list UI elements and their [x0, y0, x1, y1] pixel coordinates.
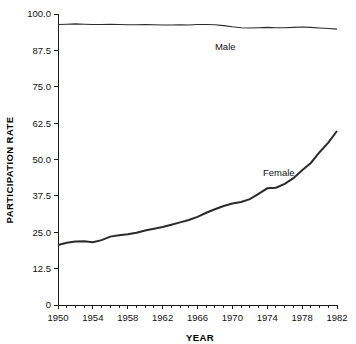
- y-tick-label: 25.0: [33, 227, 52, 238]
- y-tick-label: 0: [46, 299, 51, 310]
- y-tick-label: 87.5: [33, 45, 52, 56]
- x-tick-label: 1966: [187, 312, 208, 323]
- x-axis-tick-labels: 195019541958196219661970197419781982: [47, 312, 347, 323]
- y-tick-label: 100.0: [27, 8, 51, 19]
- x-tick-label: 1974: [257, 312, 278, 323]
- y-axis-ticks: [54, 14, 58, 305]
- participation-rate-line-chart: 012.525.037.550.062.575.087.5100.0 19501…: [0, 0, 356, 344]
- chart-axes: [58, 14, 337, 305]
- x-tick-label: 1970: [222, 312, 243, 323]
- y-axis-tick-labels: 012.525.037.550.062.575.087.5100.0: [27, 8, 51, 310]
- series-line-male: [58, 24, 337, 29]
- x-axis-title: YEAR: [186, 332, 214, 343]
- x-tick-label: 1958: [117, 312, 138, 323]
- series-label-female: Female: [263, 167, 295, 178]
- y-axis-title: PARTICIPATION RATE: [4, 117, 15, 224]
- x-tick-label: 1954: [82, 312, 103, 323]
- x-axis-ticks: [58, 305, 337, 309]
- y-tick-label: 37.5: [33, 190, 52, 201]
- chart-container: 012.525.037.550.062.575.087.5100.0 19501…: [0, 0, 356, 344]
- x-tick-label: 1982: [326, 312, 347, 323]
- x-tick-label: 1978: [292, 312, 313, 323]
- y-tick-label: 75.0: [33, 81, 52, 92]
- x-tick-label: 1950: [47, 312, 68, 323]
- series-label-male: Male: [215, 41, 236, 52]
- y-tick-label: 12.5: [33, 263, 52, 274]
- x-tick-label: 1962: [152, 312, 173, 323]
- y-tick-label: 62.5: [33, 118, 52, 129]
- series-line-female: [58, 131, 337, 245]
- y-tick-label: 50.0: [33, 154, 52, 165]
